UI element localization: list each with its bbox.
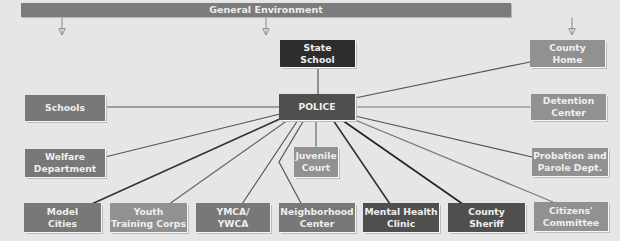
node-mental-health-clinic: Mental Health Clinic bbox=[363, 203, 439, 232]
node-schools: Schools bbox=[25, 95, 105, 121]
node-police: POLICE bbox=[279, 94, 355, 120]
node-neighborhood-center: Neighborhood Center bbox=[279, 203, 355, 232]
node-model-cities: Model Cities bbox=[24, 203, 101, 232]
node-county-sheriff: County Sheriff bbox=[448, 203, 525, 232]
node-county-home: County Home bbox=[530, 40, 605, 67]
node-citizens-committee: Citizens' Committee bbox=[534, 202, 608, 231]
general-environment-bar: General Environment bbox=[21, 3, 511, 17]
node-detention-center: Detention Center bbox=[531, 94, 606, 120]
node-juvenile-court: Juvenile Court bbox=[294, 147, 338, 177]
node-welfare-department: Welfare Department bbox=[25, 149, 105, 177]
node-youth-training-corps: Youth Training Corps bbox=[110, 203, 187, 232]
arrow-down-icon bbox=[59, 18, 575, 35]
node-state-school: State School bbox=[280, 40, 355, 67]
node-ymca-ywca: YMCA/ YWCA bbox=[196, 203, 270, 232]
node-probation-parole: Probation and Parole Dept. bbox=[532, 148, 608, 176]
